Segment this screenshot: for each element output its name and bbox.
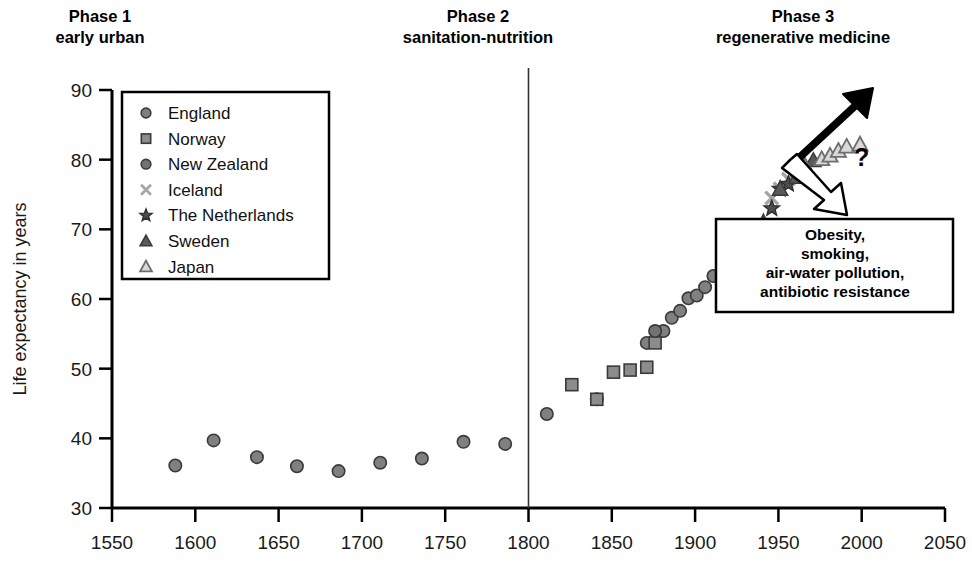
y-tick-label: 30 [71,498,92,519]
risk-factors-callout: Obesity, smoking, air-water pollution, a… [716,219,953,312]
phase-headers: Phase 1 early urban Phase 2 sanitation-n… [56,7,891,46]
y-tick-label: 70 [71,219,92,240]
y-tick-label: 80 [71,150,92,171]
y-tick-label: 90 [71,80,92,101]
data-point-circle-filled [674,305,686,317]
life-expectancy-chart: Phase 1 early urban Phase 2 sanitation-n… [0,0,972,569]
x-tick-label: 1600 [174,532,216,553]
phase-2-subtitle: sanitation-nutrition [403,28,553,46]
data-point-circle-filled [649,325,661,337]
phase-1-subtitle: early urban [56,28,145,46]
y-axis-ticks: 30405060708090 [71,80,112,519]
callout-line-4: antibiotic resistance [760,283,910,300]
legend-label: Japan [168,258,214,277]
data-point-square-filled [591,393,603,405]
data-point-square-filled [641,361,653,373]
callout-line-3: air-water pollution, [766,264,905,281]
phase-3-subtitle: regenerative medicine [716,28,890,46]
data-point-circle-filled [541,408,553,420]
x-tick-label: 1650 [257,532,299,553]
legend-label: New Zealand [168,155,268,174]
legend-label: England [168,104,230,123]
data-point-circle-filled [416,452,428,464]
callout-line-1: Obesity, [805,226,865,243]
y-tick-label: 50 [71,359,92,380]
phase-1-title: Phase 1 [69,7,131,25]
data-point-circle-filled [207,434,219,446]
data-point-square-filled [624,364,636,376]
x-tick-label: 2050 [924,532,966,553]
x-tick-label: 1800 [507,532,549,553]
data-point-circle-filled [332,465,344,477]
x-axis-ticks: 1550160016501700175018001850190019502000… [91,508,966,553]
x-tick-label: 1750 [424,532,466,553]
x-tick-label: 1700 [341,532,383,553]
y-tick-label: 40 [71,428,92,449]
circle-filled-icon [141,108,151,118]
data-point-square-filled [566,379,578,391]
x-tick-label: 1850 [591,532,633,553]
data-point-circle-filled [169,459,181,471]
data-point-square-filled [607,366,619,378]
legend: EnglandNorwayNew ZealandIcelandThe Nethe… [122,92,329,279]
x-tick-label: 1950 [757,532,799,553]
legend-label: Norway [168,130,226,149]
circle-filled-icon [141,159,151,169]
data-point-circle-filled [291,460,303,472]
data-point-circle-filled [251,451,263,463]
phase-3-title: Phase 3 [772,7,834,25]
callout-line-2: smoking, [801,245,869,262]
y-tick-label: 60 [71,289,92,310]
x-tick-label: 2000 [841,532,883,553]
phase-2-title: Phase 2 [447,7,509,25]
data-point-circle-filled [699,281,711,293]
x-tick-label: 1550 [91,532,133,553]
y-axis-title: Life expectancy in years [10,202,30,395]
square-filled-icon [141,134,150,143]
question-mark-label: ? [854,143,869,171]
legend-label: The Netherlands [168,206,294,225]
data-point-circle-filled [374,457,386,469]
data-point-circle-filled [457,436,469,448]
series-new-zealand [649,325,661,337]
legend-label: Sweden [168,232,229,251]
legend-label: Iceland [168,181,223,200]
data-point-square-filled [649,337,661,349]
data-point-circle-filled [499,438,511,450]
x-tick-label: 1900 [674,532,716,553]
